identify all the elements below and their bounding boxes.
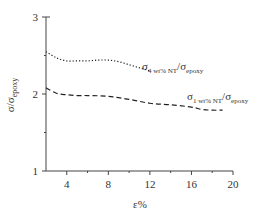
series-label-1wt: σ1 wt% NT/σepoxy: [187, 90, 249, 105]
x-axis: 48121620: [46, 171, 239, 190]
series-label-4wt: σ4 wt% NT/σepoxy: [142, 60, 204, 75]
x-axis-label: ε%: [133, 198, 147, 210]
series-line-0: [46, 52, 150, 71]
x-tick-label: 8: [106, 178, 112, 190]
x-tick-label: 4: [64, 178, 70, 190]
x-tick-label: 12: [144, 178, 155, 190]
y-tick-label: 2: [33, 88, 39, 100]
x-tick-label: 20: [228, 178, 240, 190]
y-tick-label: 1: [33, 165, 39, 177]
y-axis-label: σ/σepoxy: [4, 78, 19, 112]
x-tick-label: 16: [186, 178, 198, 190]
y-tick-label: 3: [33, 11, 39, 23]
chart: 123 48121620 σ/σepoxy ε% σ4 wt% NT/σepox…: [0, 0, 270, 212]
y-axis: 123: [33, 11, 51, 177]
